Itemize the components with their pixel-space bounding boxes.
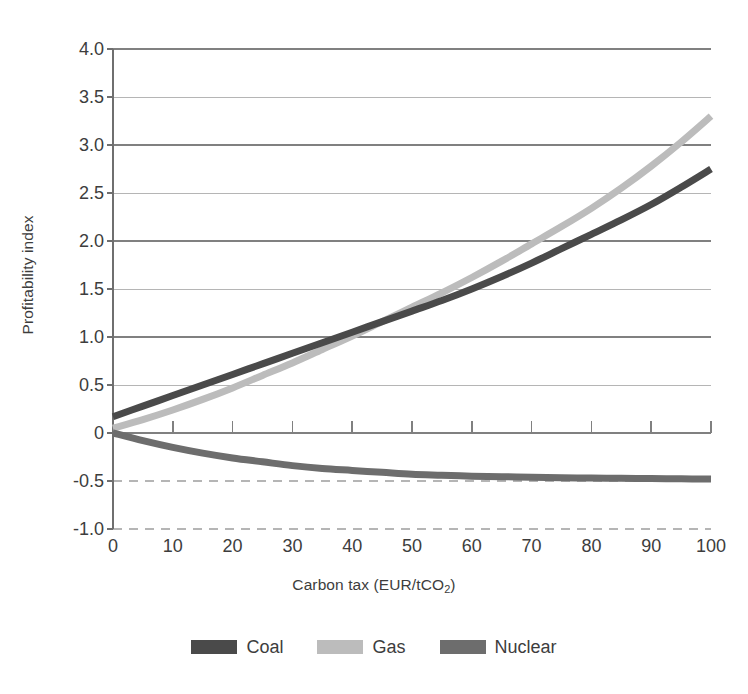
- x-axis-tick-label: 20: [203, 537, 263, 555]
- legend-label-coal: Coal: [246, 638, 283, 656]
- series-line-coal: [113, 169, 711, 417]
- x-axis-title-subscript: 2: [444, 583, 450, 595]
- legend-label-nuclear: Nuclear: [495, 638, 557, 656]
- x-axis-tick-label: 50: [382, 537, 442, 555]
- legend-item-gas[interactable]: Gas: [317, 638, 405, 656]
- x-axis-tick-label: 40: [322, 537, 382, 555]
- x-axis-tick-label: 70: [502, 537, 562, 555]
- legend-item-coal[interactable]: Coal: [191, 638, 283, 656]
- legend-swatch-coal: [191, 640, 237, 654]
- x-axis-tick-label: 30: [262, 537, 322, 555]
- legend-item-nuclear[interactable]: Nuclear: [440, 638, 557, 656]
- legend-swatch-gas: [317, 640, 363, 654]
- x-axis-tick-label: 0: [83, 537, 143, 555]
- legend-label-gas: Gas: [372, 638, 405, 656]
- x-axis-title-tail: ): [450, 576, 455, 593]
- chart-legend: CoalGasNuclear: [0, 638, 748, 656]
- chart-figure: Profitability index 4.03.53.02.52.01.51.…: [0, 0, 748, 694]
- x-axis-tick-label: 10: [143, 537, 203, 555]
- x-axis-tick-label: 80: [561, 537, 621, 555]
- x-axis-title-main: Carbon tax (EUR/tCO: [292, 576, 444, 593]
- x-axis-title: Carbon tax (EUR/tCO2): [0, 576, 748, 594]
- x-axis-tick-labels: 0102030405060708090100: [0, 537, 748, 567]
- legend-swatch-nuclear: [440, 640, 486, 654]
- x-axis-tick-label: 100: [681, 537, 741, 555]
- x-axis-tick-label: 90: [621, 537, 681, 555]
- x-axis-tick-label: 60: [442, 537, 502, 555]
- series-line-nuclear: [113, 433, 711, 479]
